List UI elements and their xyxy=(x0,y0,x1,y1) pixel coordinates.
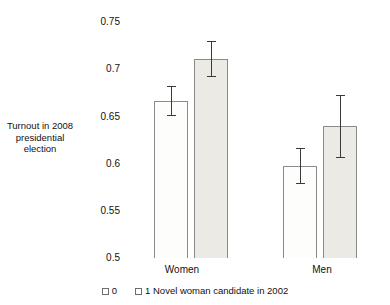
category-label-men: Men xyxy=(312,264,331,275)
plot-area xyxy=(126,14,384,262)
y-tick-label-4: 0.55 xyxy=(101,206,120,216)
y-tick-label-5: 0.5 xyxy=(106,253,120,263)
legend-swatch-icon-1 xyxy=(135,288,142,295)
y-tick-label-3: 0.6 xyxy=(106,159,120,169)
error-bar-women-series-1 xyxy=(211,41,212,76)
chart-legend: 0 1 Novel woman candidate in 2002 xyxy=(0,282,390,300)
bar-women-series-1 xyxy=(194,59,228,258)
y-tick-label-2: 0.65 xyxy=(101,112,120,122)
category-label-women: Women xyxy=(165,264,199,275)
y-axis-title-line-1: Turnout in 2008 xyxy=(2,120,78,132)
error-bar-women-series-0 xyxy=(171,86,172,114)
error-cap-lower-men-series-1 xyxy=(336,157,345,158)
error-cap-upper-men-series-0 xyxy=(296,148,305,149)
error-cap-lower-men-series-0 xyxy=(296,183,305,184)
error-cap-lower-women-series-1 xyxy=(207,76,216,77)
legend-swatch-icon-0 xyxy=(102,288,109,295)
legend-label-1: 1 Novel woman candidate in 2002 xyxy=(145,286,288,296)
error-bar-men-series-1 xyxy=(340,95,341,157)
y-tick-label-0: 0.75 xyxy=(101,17,120,27)
legend-item-1[interactable]: 1 Novel woman candidate in 2002 xyxy=(135,286,288,296)
y-axis-ticks: 0.75 0.7 0.65 0.6 0.55 0.5 xyxy=(78,0,120,305)
error-cap-upper-women-series-1 xyxy=(207,41,216,42)
y-tick-label-1: 0.7 xyxy=(106,64,120,74)
y-axis-title: Turnout in 2008 presidential election xyxy=(2,120,78,155)
error-cap-upper-men-series-1 xyxy=(336,95,345,96)
bar-chart: Turnout in 2008 presidential election 0.… xyxy=(0,0,390,305)
x-axis-categories: Women Men xyxy=(126,264,384,278)
legend-item-0[interactable]: 0 xyxy=(102,286,117,296)
bar-women-series-0 xyxy=(154,101,188,258)
error-bar-men-series-0 xyxy=(300,148,301,184)
error-cap-lower-women-series-0 xyxy=(167,115,176,116)
y-axis-title-line-2: presidential xyxy=(2,132,78,144)
legend-label-0: 0 xyxy=(112,286,117,296)
error-cap-upper-women-series-0 xyxy=(167,86,176,87)
y-axis-title-line-3: election xyxy=(2,143,78,155)
